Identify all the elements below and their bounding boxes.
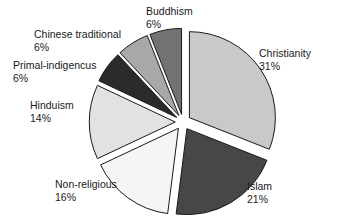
pie-label-christianity-name: Christianity (259, 47, 311, 60)
pie-label-chinese-traditional: Chinese traditional 6% (34, 28, 121, 53)
pie-label-buddhism-name: Buddhism (146, 5, 193, 18)
pie-label-buddhism-value: 6% (146, 18, 193, 31)
pie-label-chinese-traditional-value: 6% (34, 41, 121, 54)
pie-label-hinduism: Hinduism 14% (30, 99, 74, 124)
pie-label-hinduism-name: Hinduism (30, 99, 74, 112)
pie-label-islam-value: 21% (247, 193, 272, 206)
pie-label-islam: Islam 21% (247, 180, 272, 205)
pie-label-non-religious-value: 16% (55, 191, 117, 204)
pie-label-christianity-value: 31% (259, 60, 311, 73)
pie-label-non-religious-name: Non-religious (55, 178, 117, 191)
pie-label-buddhism: Buddhism 6% (146, 5, 193, 30)
pie-label-hinduism-value: 14% (30, 112, 74, 125)
pie-label-primal-indigencus: Primal-indigencus 6% (13, 59, 96, 84)
pie-label-christianity: Christianity 31% (259, 47, 311, 72)
pie-label-non-religious: Non-religious 16% (55, 178, 117, 203)
pie-label-chinese-traditional-name: Chinese traditional (34, 28, 121, 41)
pie-label-islam-name: Islam (247, 180, 272, 193)
pie-label-primal-indigencus-value: 6% (13, 72, 96, 85)
pie-label-primal-indigencus-name: Primal-indigencus (13, 59, 96, 72)
pie-chart-figure: Christianity 31% Islam 21% Non-religious… (0, 0, 350, 219)
